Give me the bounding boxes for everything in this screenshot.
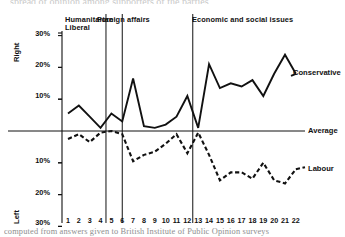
x-tick-22: 22 [287,216,305,225]
series-line-labour [68,131,296,183]
series-label-average: Average [308,126,338,135]
series-label-labour: Labour [308,164,334,173]
segment-label-humanitarian-liberal-line2: Liberal [65,24,90,33]
figure-panel: spread of opinion among supporters of th… [0,0,345,237]
series-line-conservative [68,55,296,128]
y-tick-30-right: 30% [24,29,50,38]
y-axis-label-right: Right [12,43,21,62]
line-chart-canvas [0,0,345,237]
leader-line-labour [296,167,305,169]
series-label-conservative: Conservative [293,68,341,77]
y-tick-20-left: 20% [24,188,50,197]
y-tick-20-right: 20% [24,60,50,69]
y-tick-30-left: 30% [24,218,50,227]
segment-label-economic-and-social-issues: Economic and social issues [192,16,293,25]
y-tick-10-left: 10% [24,156,50,165]
y-axis-label-left: Left [12,210,21,224]
segment-label-foreign-affairs: Foreign affairs [97,16,150,25]
y-tick-10-right: 10% [24,91,50,100]
figure-caption: computed from answers given to British I… [4,227,345,236]
